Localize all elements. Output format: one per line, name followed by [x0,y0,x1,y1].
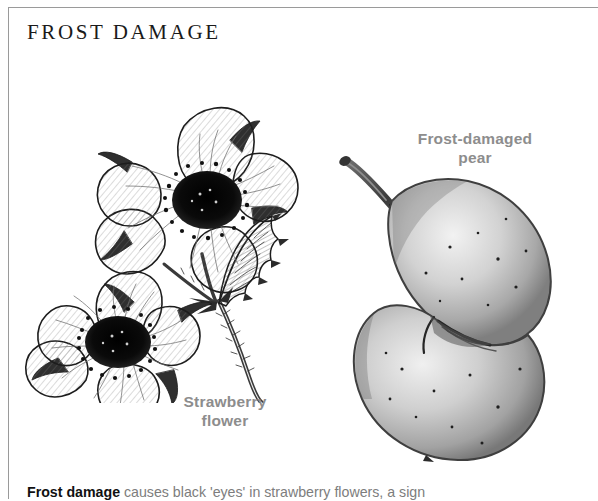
label-pear-line1: Frost-damaged [390,130,560,149]
page-rule-left [8,7,9,499]
label-strawberry-line1: Strawberry [150,393,300,412]
label-strawberry-line2: flower [150,412,300,431]
label-frost-damaged-pear: Frost-damaged pear [390,130,560,168]
frost-damaged-pear-illustration [330,155,580,465]
caption-lead: Frost damage [27,484,120,500]
strawberry-flower-illustration [14,58,344,403]
caption: Frost damage causes black 'eyes' in stra… [27,484,583,501]
page-title: FROST DAMAGE [27,20,221,45]
caption-body: causes black 'eyes' in strawberry flower… [120,484,425,500]
label-strawberry-flower: Strawberry flower [150,393,300,431]
label-pear-line2: pear [390,149,560,168]
page-rule-top [8,7,598,8]
